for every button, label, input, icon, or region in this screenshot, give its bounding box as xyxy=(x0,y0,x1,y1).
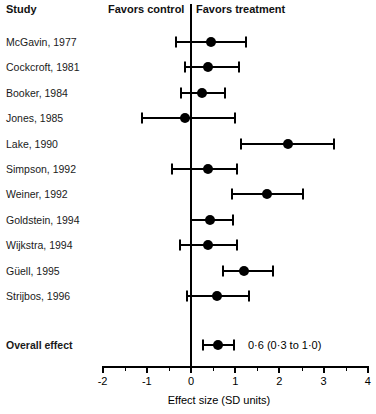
ci-lower-cap xyxy=(179,240,181,251)
effect-marker xyxy=(239,266,249,276)
effect-marker xyxy=(203,62,213,72)
x-tick-minor xyxy=(213,366,214,371)
x-tick-label: 0 xyxy=(188,375,194,387)
ci-lower-cap xyxy=(175,37,177,48)
study-label: Jones, 1985 xyxy=(6,112,63,124)
legend-favors-treatment: Favors treatment xyxy=(196,3,285,15)
x-tick-major xyxy=(102,366,104,373)
ci-lower-cap xyxy=(141,113,143,124)
effect-marker xyxy=(205,215,215,225)
null-effect-line xyxy=(190,4,192,366)
effect-marker xyxy=(206,37,216,47)
study-label: Simpson, 1992 xyxy=(6,163,76,175)
ci-lower-cap xyxy=(190,214,192,225)
ci-upper-cap xyxy=(248,291,250,302)
effect-marker xyxy=(180,113,190,123)
ci-upper-cap xyxy=(234,113,236,124)
x-tick-minor xyxy=(125,366,126,371)
ci-lower-cap xyxy=(180,87,182,98)
x-tick-minor xyxy=(169,366,170,371)
study-label: Goldstein, 1994 xyxy=(6,214,80,226)
x-tick-major xyxy=(234,366,236,373)
ci-upper-cap xyxy=(224,87,226,98)
column-header-study: Study xyxy=(6,3,37,15)
x-tick-minor xyxy=(346,366,347,371)
ci-lower-cap xyxy=(184,62,186,73)
ci-upper-cap xyxy=(238,62,240,73)
x-tick-minor xyxy=(257,366,258,371)
study-label: Strijbos, 1996 xyxy=(6,290,70,302)
ci-upper-cap xyxy=(302,189,304,200)
effect-marker xyxy=(283,139,293,149)
effect-marker xyxy=(213,340,223,350)
study-label: Booker, 1984 xyxy=(6,87,68,99)
ci-lower-cap xyxy=(240,138,242,149)
ci-upper-cap xyxy=(232,214,234,225)
x-tick-label: 4 xyxy=(365,375,371,387)
study-label: Weiner, 1992 xyxy=(6,188,68,200)
study-label: Güell, 1995 xyxy=(6,265,60,277)
study-label: Overall effect xyxy=(6,339,73,351)
ci-lower-cap xyxy=(222,265,224,276)
x-tick-major xyxy=(367,366,369,373)
overall-effect-annotation: 0·6 (0·3 to 1·0) xyxy=(248,339,321,351)
x-tick-major xyxy=(146,366,148,373)
ci-upper-cap xyxy=(245,37,247,48)
effect-marker xyxy=(262,189,272,199)
x-axis-title: Effect size (SD units) xyxy=(0,394,376,406)
x-tick-major xyxy=(278,366,280,373)
x-tick-major xyxy=(323,366,325,373)
study-label: Lake, 1990 xyxy=(6,138,58,150)
ci-lower-cap xyxy=(231,189,233,200)
ci-upper-cap xyxy=(236,164,238,175)
ci-upper-cap xyxy=(233,340,235,351)
ci-upper-cap xyxy=(333,138,335,149)
legend-favors-control: Favors control xyxy=(108,3,184,15)
effect-marker xyxy=(212,291,222,301)
x-tick-label: -1 xyxy=(142,375,152,387)
study-label: Cockcroft, 1981 xyxy=(6,61,80,73)
forest-plot: Study Favors control Favors treatment Mc… xyxy=(0,0,376,414)
x-tick-label: 3 xyxy=(321,375,327,387)
ci-upper-cap xyxy=(272,265,274,276)
ci-lower-cap xyxy=(171,164,173,175)
x-tick-minor xyxy=(302,366,303,371)
effect-marker xyxy=(203,240,213,250)
ci-lower-cap xyxy=(186,291,188,302)
x-axis-title-text: Effect size (SD units) xyxy=(168,394,271,406)
ci-upper-cap xyxy=(236,240,238,251)
x-tick-label: -2 xyxy=(98,375,108,387)
x-tick-label: 1 xyxy=(232,375,238,387)
ci-lower-cap xyxy=(202,340,204,351)
study-label: Wijkstra, 1994 xyxy=(6,239,73,251)
x-tick-label: 2 xyxy=(276,375,282,387)
study-label: McGavin, 1977 xyxy=(6,36,77,48)
x-tick-major xyxy=(190,366,192,373)
effect-marker xyxy=(203,164,213,174)
effect-marker xyxy=(197,88,207,98)
